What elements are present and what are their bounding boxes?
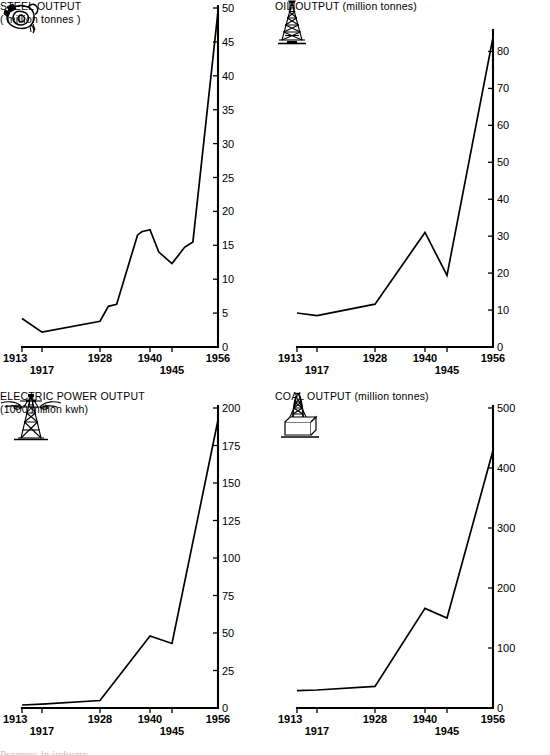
cut-off-caption: Progress in industry: [0, 748, 550, 755]
x-tick-label: 1928: [363, 713, 387, 725]
data-line-oil: [297, 37, 493, 315]
chart-page: 0510152025303540455019131917192819401945…: [0, 0, 550, 755]
x-tick-label: 1913: [3, 713, 27, 725]
x-tick-label: 1913: [3, 352, 27, 364]
y-tick-label: 25: [222, 665, 234, 677]
y-tick-label: 60: [497, 119, 509, 131]
chart-grid: 0510152025303540455019131917192819401945…: [0, 0, 550, 755]
y-tick-label: 25: [222, 172, 234, 184]
steel-subtitle-text: ( million tonnes ): [0, 13, 81, 26]
y-tick-label: 10: [497, 304, 509, 316]
y-tick-label: 45: [222, 36, 234, 48]
y-tick-label: 70: [497, 82, 509, 94]
data-line-steel: [22, 11, 218, 332]
oil-subtitle-text: (million tonnes): [343, 0, 417, 12]
x-tick-label: 1917: [305, 725, 329, 737]
y-tick-label: 10: [222, 273, 234, 285]
y-tick-label: 400: [497, 462, 515, 474]
x-tick-label: 1917: [30, 364, 54, 376]
x-tick-label: 1940: [413, 352, 437, 364]
y-tick-label: 150: [222, 477, 240, 489]
y-tick-label: 175: [222, 440, 240, 452]
electric-chart-title: ELECTRIC POWER OUTPUT (1000 million kwh): [0, 390, 145, 416]
x-tick-label: 1956: [481, 713, 505, 725]
oil-title-text: OIL OUTPUT: [275, 0, 339, 12]
electric-subtitle-text: (1000 million kwh): [0, 403, 145, 416]
y-tick-label: 15: [222, 239, 234, 251]
y-tick-label: 75: [222, 590, 234, 602]
steel-chart-title: STEEL OUTPUT ( million tonnes ): [0, 0, 81, 26]
x-tick-label: 1956: [206, 352, 230, 364]
x-tick-label: 1945: [435, 725, 459, 737]
y-tick-label: 30: [497, 230, 509, 242]
y-tick-label: 40: [497, 193, 509, 205]
steel-title-text: STEEL OUTPUT: [0, 0, 81, 12]
y-tick-label: 200: [222, 402, 240, 414]
y-tick-label: 500: [497, 402, 515, 414]
x-tick-label: 1956: [481, 352, 505, 364]
x-tick-label: 1940: [138, 713, 162, 725]
chart-panel-coal: 0100200300400500191319171928194019451956: [275, 390, 550, 755]
y-tick-label: 100: [497, 642, 515, 654]
x-tick-label: 1928: [88, 713, 112, 725]
coal-chart-title: COAL OUTPUT (million tonnes): [275, 390, 429, 403]
coal-chart-svg: 0100200300400500191319171928194019451956: [275, 390, 550, 755]
oil-chart-title: OIL OUTPUT (million tonnes): [275, 0, 417, 13]
x-tick-label: 1956: [206, 713, 230, 725]
y-tick-label: 300: [497, 522, 515, 534]
x-tick-label: 1945: [435, 364, 459, 376]
electric-title-text: ELECTRIC POWER OUTPUT: [0, 390, 145, 402]
x-tick-label: 1940: [138, 352, 162, 364]
coal-title-text: COAL OUTPUT: [275, 390, 351, 402]
x-tick-label: 1945: [160, 364, 184, 376]
x-tick-label: 1928: [88, 352, 112, 364]
x-tick-label: 1913: [278, 352, 302, 364]
chart-panel-steel: 0510152025303540455019131917192819401945…: [0, 0, 275, 378]
x-tick-label: 1928: [363, 352, 387, 364]
y-tick-label: 100: [222, 552, 240, 564]
y-tick-label: 35: [222, 104, 234, 116]
y-tick-label: 50: [222, 2, 234, 14]
y-tick-label: 125: [222, 515, 240, 527]
y-tick-label: 200: [497, 582, 515, 594]
y-tick-label: 50: [222, 627, 234, 639]
x-tick-label: 1940: [413, 713, 437, 725]
y-tick-label: 80: [497, 45, 509, 57]
x-tick-label: 1913: [278, 713, 302, 725]
data-line-electric: [22, 420, 218, 705]
coal-subtitle-text: (million tonnes): [354, 390, 428, 402]
x-tick-label: 1945: [160, 725, 184, 737]
chart-panel-electric: 0255075100125150175200191319171928194019…: [0, 390, 275, 755]
chart-panel-oil: 0102030405060708019131917192819401945195…: [275, 0, 550, 378]
y-tick-label: 40: [222, 70, 234, 82]
x-tick-label: 1917: [30, 725, 54, 737]
x-tick-label: 1917: [305, 364, 329, 376]
oil-chart-svg: 0102030405060708019131917192819401945195…: [275, 0, 550, 378]
y-tick-label: 20: [222, 205, 234, 217]
y-tick-label: 30: [222, 138, 234, 150]
steel-chart-svg: 0510152025303540455019131917192819401945…: [0, 0, 275, 378]
y-tick-label: 5: [222, 307, 228, 319]
y-tick-label: 50: [497, 156, 509, 168]
y-tick-label: 20: [497, 267, 509, 279]
data-line-coal: [297, 451, 493, 691]
